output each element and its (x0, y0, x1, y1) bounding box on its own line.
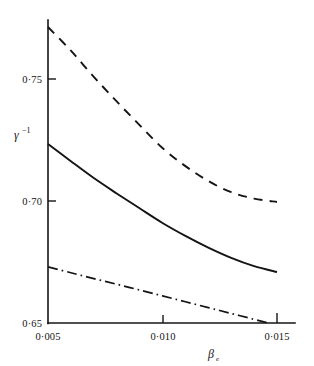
y-axis-title-superscript: −1 (22, 126, 31, 135)
chart-figure: 0·75 0·70 0·65 0·005 0·010 0·015 γ −1 β … (0, 0, 314, 366)
x-tick-label-0015: 0·015 (265, 331, 290, 342)
x-tick-label-0010: 0·010 (151, 331, 176, 342)
x-axis-title-subscript: e (216, 355, 219, 363)
y-tick-label-070: 0·70 (22, 196, 42, 207)
x-tick-label-0005: 0·005 (36, 331, 61, 342)
y-axis-title-base: γ (14, 128, 19, 142)
x-axis-title-base: β (207, 347, 214, 361)
y-tick-label-075: 0·75 (22, 74, 42, 85)
figure-background (0, 0, 314, 366)
y-tick-label-065: 0·65 (22, 318, 42, 329)
